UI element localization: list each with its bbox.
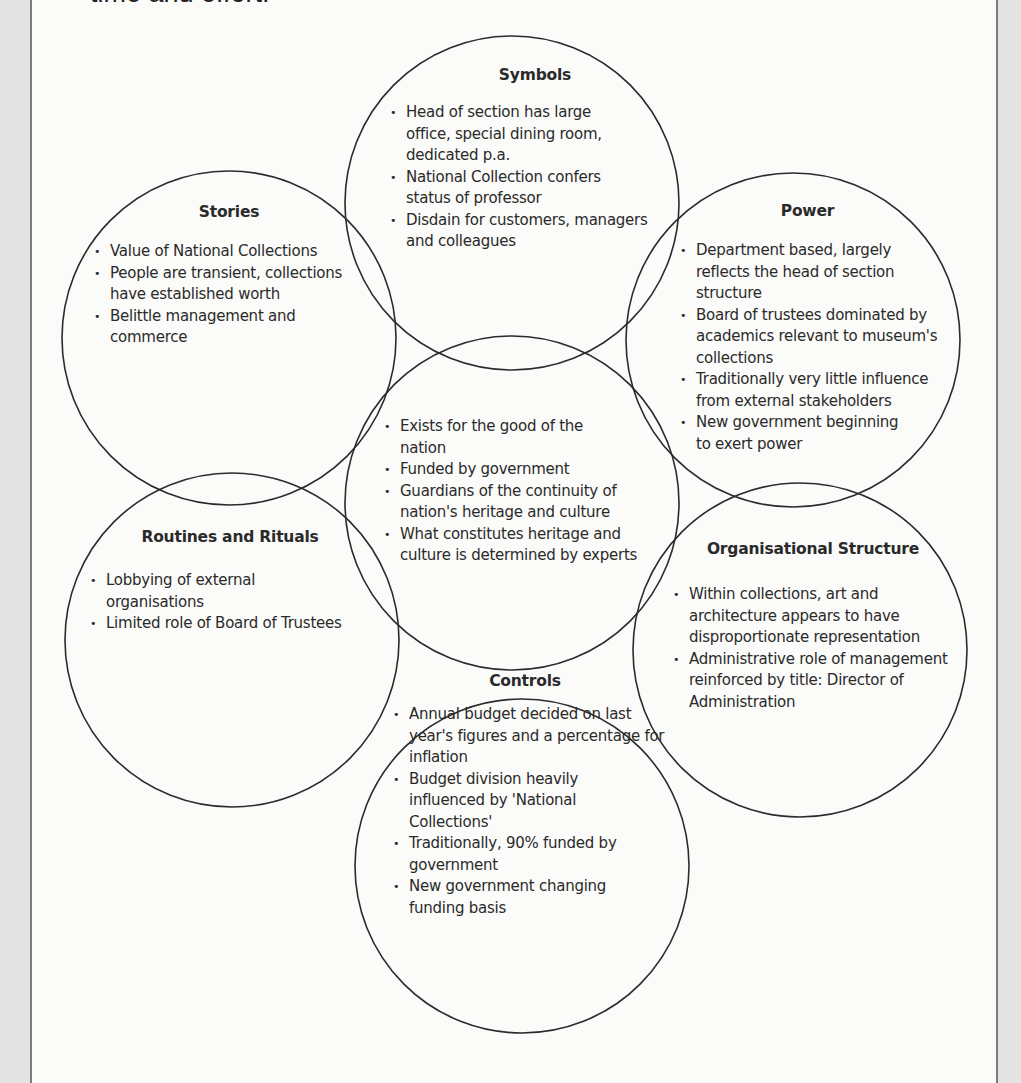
- list-item: Disdain for customers, managers and coll…: [390, 210, 676, 253]
- list-item: Administrative role of management reinfo…: [673, 649, 961, 714]
- list-item: What constitutes heritage and culture is…: [384, 524, 670, 567]
- list-item: New government changing funding basis: [393, 876, 639, 919]
- list-item: Traditionally, 90% funded by government: [393, 833, 649, 876]
- symbols-block: Symbols Head of section has large office…: [390, 66, 680, 253]
- intro-text: time and effort.: [90, 0, 270, 9]
- list-item: Value of National Collections: [94, 241, 384, 263]
- controls-title: Controls: [367, 672, 683, 690]
- power-title: Power: [660, 202, 955, 220]
- list-item: Funded by government: [384, 459, 674, 481]
- org-structure-block: Organisational Structure Within collecti…: [673, 540, 963, 713]
- list-item: New government beginning to exert power: [680, 412, 916, 455]
- stories-block: Stories Value of National Collections Pe…: [94, 203, 384, 349]
- list-item: People are transient, collections have e…: [94, 263, 378, 306]
- routines-title: Routines and Rituals: [70, 528, 390, 546]
- list-item: Head of section has large office, specia…: [390, 102, 616, 167]
- org-structure-title: Organisational Structure: [663, 540, 963, 558]
- list-item: Budget division heavily influenced by 'N…: [393, 769, 619, 834]
- org-structure-list: Within collections, art and architecture…: [673, 584, 963, 713]
- list-item: Department based, largely reflects the h…: [680, 240, 911, 305]
- list-item: National Collection confers status of pr…: [390, 167, 626, 210]
- controls-list: Annual budget decided on last year's fig…: [393, 704, 683, 919]
- power-block: Power Department based, largely reflects…: [680, 202, 955, 455]
- controls-block: Controls Annual budget decided on last y…: [393, 672, 683, 919]
- list-item: Annual budget decided on last year's fig…: [393, 704, 677, 769]
- list-item: Traditionally very little influence from…: [680, 369, 958, 412]
- list-item: Within collections, art and architecture…: [673, 584, 959, 649]
- list-item: Exists for the good of the nation: [384, 416, 615, 459]
- routines-block: Routines and Rituals Lobbying of externa…: [90, 528, 390, 635]
- symbols-title: Symbols: [390, 66, 680, 84]
- power-list: Department based, largely reflects the h…: [680, 240, 955, 455]
- list-item: Belittle management and commerce: [94, 306, 330, 349]
- list-item: Guardians of the continuity of nation's …: [384, 481, 640, 524]
- stories-title: Stories: [74, 203, 384, 221]
- list-item: Board of trustees dominated by academics…: [680, 305, 966, 370]
- list-item: Limited role of Board of Trustees: [90, 613, 396, 635]
- symbols-list: Head of section has large office, specia…: [390, 102, 680, 253]
- paradigm-block: Exists for the good of the nation Funded…: [384, 416, 674, 567]
- stories-list: Value of National Collections People are…: [94, 241, 384, 349]
- routines-list: Lobbying of external organisations Limit…: [90, 570, 390, 635]
- list-item: Lobbying of external organisations: [90, 570, 296, 613]
- paradigm-list: Exists for the good of the nation Funded…: [384, 416, 674, 567]
